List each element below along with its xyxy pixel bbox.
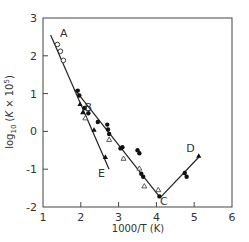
chart-canvas: 123456 -2-10123 ABCDE 1000/T (K) log10 (… — [0, 0, 249, 242]
filled-circle-point — [137, 151, 141, 155]
open-triangle-point — [107, 137, 112, 141]
open-triangle-point — [121, 156, 126, 160]
x-axis-ticks: 123456 — [40, 202, 236, 224]
open-triangle-point — [156, 187, 161, 191]
fit-line — [160, 156, 200, 198]
filled-circle-point — [77, 93, 81, 97]
plot-frame — [43, 18, 232, 207]
x-tick-label: 1 — [40, 211, 47, 224]
filled-circle-point — [183, 171, 187, 175]
y-tick-label: -2 — [26, 201, 37, 214]
filled-circle-point — [106, 127, 110, 131]
y-tick-label: 1 — [30, 88, 37, 101]
filled-circle-point — [76, 88, 80, 92]
filled-circle-point — [96, 120, 100, 124]
y-tick-label: 0 — [30, 125, 37, 138]
y-axis-title: log10 (K × 105) — [3, 75, 18, 149]
curve-label-d: D — [186, 142, 194, 155]
curve-labels: ABCDE — [60, 27, 195, 208]
x-tick-label: 2 — [77, 211, 84, 224]
x-tick-label: 5 — [191, 211, 198, 224]
curve-label-b: B — [85, 101, 93, 114]
open-triangle-point — [137, 166, 142, 170]
x-axis-title: 1000/T (K) — [112, 223, 165, 234]
filled-triangle-point — [196, 153, 201, 158]
filled-circle-point — [141, 175, 145, 179]
filled-triangle-point — [77, 101, 82, 106]
fit-lines — [51, 35, 200, 198]
filled-circle-point — [120, 145, 124, 149]
filled-circle-point — [105, 122, 109, 126]
y-tick-label: 3 — [30, 12, 37, 25]
y-tick-label: 2 — [30, 50, 37, 63]
open-circle-point — [58, 49, 63, 54]
filled-circle-point — [184, 175, 188, 179]
x-tick-label: 6 — [229, 211, 236, 224]
data-points — [55, 42, 201, 198]
y-axis-ticks: -2-10123 — [26, 12, 48, 214]
open-circle-point — [61, 58, 66, 63]
curve-label-e: E — [98, 167, 105, 180]
filled-circle-point — [107, 132, 111, 136]
open-triangle-point — [142, 184, 147, 188]
curve-label-a: A — [60, 27, 68, 40]
open-circle-point — [55, 42, 60, 47]
curve-label-c: C — [160, 195, 168, 208]
y-tick-label: -1 — [26, 163, 37, 176]
